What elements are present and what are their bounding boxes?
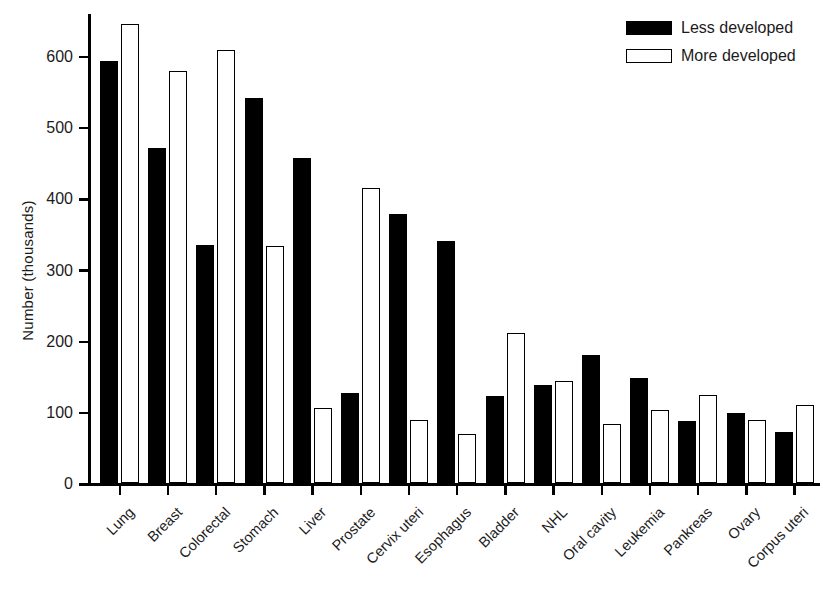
x-tick <box>504 485 507 495</box>
x-tick <box>793 485 796 495</box>
x-tick-label: Liver <box>318 482 352 516</box>
y-tick: 200 <box>79 341 88 344</box>
y-tick-label: 600 <box>46 48 73 66</box>
y-tick-label: 0 <box>64 475 73 493</box>
bar-less-developed <box>775 432 793 483</box>
bar-less-developed <box>245 98 263 483</box>
bar-less-developed <box>196 245 214 483</box>
x-tick <box>697 485 700 495</box>
x-tick <box>456 485 459 495</box>
x-tick-label: NHL <box>559 483 591 515</box>
y-tick: 600 <box>79 56 88 59</box>
legend-swatch-filled-icon <box>626 21 672 35</box>
y-tick: 500 <box>79 127 88 130</box>
legend-label-less-developed: Less developed <box>681 19 793 37</box>
y-tick: 0 <box>79 483 88 486</box>
bar-more-developed <box>217 50 235 483</box>
bar-more-developed <box>169 71 187 483</box>
x-tick <box>408 485 411 495</box>
bar-chart-figure: Number (thousands) 0100200300400500600 L… <box>0 0 838 603</box>
x-tick <box>649 485 652 495</box>
bar-less-developed <box>534 385 552 483</box>
y-tick-label: 300 <box>46 262 73 280</box>
bar-less-developed <box>293 158 311 483</box>
bar-less-developed <box>582 355 600 483</box>
y-axis-title: Number (thousands) <box>19 151 36 391</box>
bar-more-developed <box>121 24 139 483</box>
chart-legend: Less developed More developed <box>626 14 834 70</box>
bar-less-developed <box>148 148 166 483</box>
bar-less-developed <box>341 393 359 483</box>
y-tick-label: 400 <box>46 190 73 208</box>
x-tick <box>360 485 363 495</box>
y-tick-label: 200 <box>46 333 73 351</box>
y-tick-label: 500 <box>46 119 73 137</box>
y-tick: 100 <box>79 412 88 415</box>
y-tick: 400 <box>79 198 88 201</box>
bar-less-developed <box>437 241 455 483</box>
x-tick <box>745 485 748 495</box>
x-tick <box>119 485 122 495</box>
plot-area: 0100200300400500600 LungBreastColorectal… <box>100 14 826 484</box>
y-tick-label: 100 <box>46 404 73 422</box>
x-tick <box>263 485 266 495</box>
y-tick: 300 <box>79 269 88 272</box>
bar-less-developed <box>389 214 407 483</box>
bar-less-developed <box>100 61 118 483</box>
x-tick <box>601 485 604 495</box>
legend-swatch-outlined-icon <box>626 49 672 63</box>
x-tick <box>552 485 555 495</box>
legend-item-less-developed: Less developed <box>626 14 834 42</box>
y-axis-line <box>88 14 91 484</box>
x-tick <box>167 485 170 495</box>
x-tick <box>311 485 314 495</box>
bar-more-developed <box>555 381 573 483</box>
x-tick-label: Lung <box>126 481 160 515</box>
x-tick <box>215 485 218 495</box>
bar-more-developed <box>796 405 814 483</box>
bar-more-developed <box>603 424 621 483</box>
bar-more-developed <box>362 188 380 483</box>
bar-more-developed <box>266 246 284 483</box>
legend-label-more-developed: More developed <box>681 47 796 65</box>
legend-item-more-developed: More developed <box>626 42 834 70</box>
